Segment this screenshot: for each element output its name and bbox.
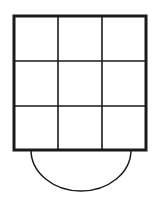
background	[0, 0, 152, 202]
grid-with-arc-diagram	[0, 0, 152, 202]
